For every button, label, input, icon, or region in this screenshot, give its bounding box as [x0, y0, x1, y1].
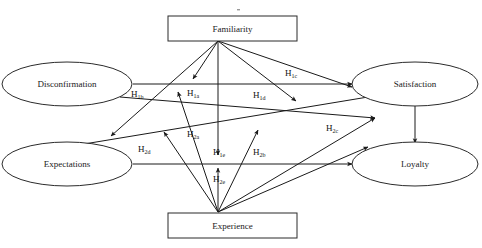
diagram-canvas: Familiarity Experience Disconfirmation E… [0, 0, 482, 248]
node-expectations[interactable]: Expectations [2, 142, 132, 186]
edge-label-h1d: H1d [253, 90, 266, 101]
node-disconfirmation[interactable]: Disconfirmation [2, 62, 132, 106]
hypothesis-label-group: H1b H1a H1c H1d H2a H1e H2b H2d [131, 68, 339, 185]
edge-label-h1e: H1e [213, 147, 226, 158]
node-expectations-label: Expectations [44, 159, 91, 169]
node-disconfirmation-label: Disconfirmation [38, 79, 97, 89]
edge-experience-to-expectations [164, 132, 218, 212]
node-experience-label: Experience [212, 221, 252, 231]
edge-label-h2d: H2d [138, 144, 151, 155]
node-loyalty[interactable]: Loyalty [352, 142, 478, 186]
path-model-diagram: Familiarity Experience Disconfirmation E… [0, 0, 482, 248]
edge-label-h1c: H1c [285, 68, 298, 79]
edge-label-h2a: H2a [187, 129, 200, 140]
edge-label-h1b: H1b [131, 89, 144, 100]
node-group: Familiarity Experience Disconfirmation E… [2, 16, 478, 238]
edge-group [78, 41, 415, 212]
edge-disconfirmation-to-loyalty [120, 97, 375, 118]
edge-experience-to-satisfaction [218, 118, 375, 212]
edge-label-h2b: H2b [253, 147, 266, 158]
edge-experience-to-loyalty [218, 147, 368, 212]
edge-experience-to-disconfirmation [178, 92, 218, 212]
node-satisfaction[interactable]: Satisfaction [352, 62, 478, 106]
node-loyalty-label: Loyalty [401, 159, 429, 169]
edge-label-h1a: H1a [187, 88, 200, 99]
scan-artifact-speck [237, 9, 240, 10]
node-familiarity-label: Familiarity [213, 24, 253, 34]
edge-label-h2e: H2e [213, 174, 226, 185]
node-satisfaction-label: Satisfaction [394, 79, 437, 89]
node-familiarity[interactable]: Familiarity [168, 16, 297, 41]
edge-label-h2c: H2c [326, 123, 339, 134]
edge-familiarity-to-satisfaction [218, 41, 352, 87]
edge-satisfaction-to-expectations [78, 97, 368, 145]
node-experience[interactable]: Experience [168, 213, 297, 238]
